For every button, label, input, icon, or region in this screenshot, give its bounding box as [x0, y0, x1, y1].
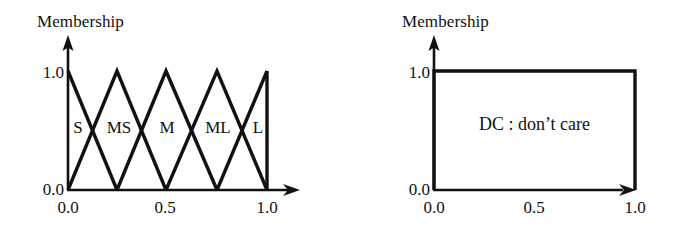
- left-x-tick-1: 1.0: [237, 199, 297, 217]
- figure-two-membership-function-plots: Membership 1.0 0.0 0.0 0.5 1.0 S MS M ML…: [0, 0, 697, 243]
- chart-dont-care-membership: Membership 1.0 0.0 0.0 0.5 1.0 DC : don’…: [350, 0, 697, 243]
- right-x-tick-1: 1.0: [605, 199, 665, 217]
- fuzzy-set-label-m: M: [147, 119, 187, 137]
- right-y-axis-title: Membership: [402, 12, 489, 31]
- right-x-tick-0: 0.0: [404, 199, 464, 217]
- left-y-tick-1: 1.0: [14, 64, 64, 82]
- left-y-axis: [63, 35, 74, 190]
- right-y-tick-1: 1.0: [380, 64, 430, 82]
- left-y-tick-0: 0.0: [14, 181, 64, 199]
- right-y-tick-0: 0.0: [380, 181, 430, 199]
- chart-fuzzy-input-partition: Membership 1.0 0.0 0.0 0.5 1.0 S MS M ML…: [0, 0, 350, 243]
- dont-care-region-label: DC : don’t care: [434, 114, 635, 134]
- fuzzy-set-label-ml: ML: [193, 119, 243, 137]
- left-x-tick-0.5: 0.5: [135, 199, 195, 217]
- fuzzy-set-label-s: S: [58, 119, 98, 137]
- fuzzy-set-label-l: L: [238, 119, 278, 137]
- left-y-axis-title: Membership: [37, 12, 124, 31]
- left-x-tick-0: 0.0: [38, 199, 98, 217]
- right-x-axis: [433, 184, 636, 196]
- right-x-tick-0.5: 0.5: [504, 199, 564, 217]
- fuzzy-set-label-ms: MS: [94, 119, 144, 137]
